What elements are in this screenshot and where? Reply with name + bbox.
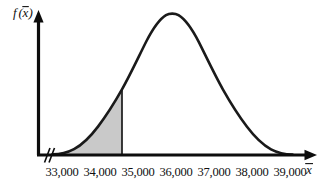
- tick-label-35000: 35,000: [121, 165, 154, 179]
- plot-canvas: f ( x ) 33,000 34,000 35,000 36,000 37,0…: [0, 0, 322, 182]
- x-axis-label-variable: x: [305, 162, 312, 177]
- y-axis-label-variable: x: [22, 5, 29, 20]
- shaded-area-region: [56, 90, 123, 155]
- x-axis-label: x: [305, 162, 313, 177]
- tick-label-37000: 37,000: [197, 165, 230, 179]
- tick-label-39000: 39,000: [273, 165, 306, 179]
- y-axis-label-paren-close: ): [28, 5, 33, 20]
- normal-distribution-figure: f ( x ) 33,000 34,000 35,000 36,000 37,0…: [0, 0, 322, 182]
- tick-label-36000: 36,000: [159, 165, 192, 179]
- x-axis-arrowhead: [305, 150, 318, 160]
- tick-label-38000: 38,000: [235, 165, 268, 179]
- tick-label-34000: 34,000: [83, 165, 116, 179]
- normal-curve-path: [53, 14, 293, 155]
- y-axis-label: f ( x ): [13, 5, 33, 20]
- tick-label-33000: 33,000: [45, 165, 78, 179]
- y-axis-arrowhead: [33, 10, 43, 23]
